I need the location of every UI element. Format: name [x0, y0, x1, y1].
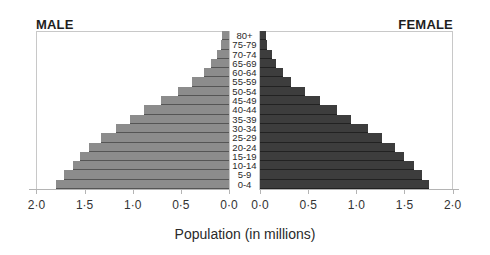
female-bar: [260, 96, 320, 105]
female-tick: [453, 190, 454, 194]
male-bar: [144, 105, 229, 114]
male-bar: [161, 96, 229, 105]
male-tick-label: 0·5: [172, 198, 189, 212]
female-tick: [260, 190, 261, 194]
female-bar: [260, 50, 272, 59]
male-tick-label: 1·5: [76, 198, 93, 212]
female-bar: [260, 59, 276, 68]
female-bar: [260, 124, 368, 133]
male-tick: [229, 190, 230, 194]
female-bar: [260, 77, 291, 86]
female-bar: [260, 68, 283, 77]
female-tick-label: 1·5: [396, 198, 413, 212]
male-bar: [73, 161, 229, 170]
male-tick-label: 1·0: [124, 198, 141, 212]
female-bar: [260, 152, 404, 161]
female-bar: [260, 115, 351, 124]
female-bar: [260, 170, 422, 179]
male-bar: [217, 50, 229, 59]
female-bar: [260, 40, 267, 49]
male-bar: [221, 40, 229, 49]
female-bar: [260, 161, 414, 170]
male-tick: [85, 190, 86, 194]
female-tick: [404, 190, 405, 194]
male-bar: [89, 143, 229, 152]
female-title: FEMALE: [398, 17, 453, 32]
female-x-axis: [260, 189, 459, 190]
female-bar: [260, 87, 305, 96]
female-bar: [260, 105, 337, 114]
male-bar: [56, 180, 229, 189]
male-tick: [133, 190, 134, 194]
male-tick: [36, 190, 37, 194]
female-bar: [260, 31, 266, 40]
male-x-axis: [29, 189, 229, 190]
male-bar: [64, 170, 229, 179]
male-bar: [130, 115, 229, 124]
male-bar: [204, 68, 229, 77]
male-bar: [222, 31, 229, 40]
female-bar: [260, 143, 395, 152]
male-bar: [211, 59, 229, 68]
female-tick: [356, 190, 357, 194]
male-bar: [192, 77, 229, 86]
male-tick: [181, 190, 182, 194]
male-bar: [116, 124, 229, 133]
female-tick-label: 1·0: [348, 198, 365, 212]
male-tick-label: 0·0: [220, 198, 237, 212]
x-axis-title: Population (in millions): [0, 226, 490, 242]
male-bar: [80, 152, 229, 161]
female-tick: [308, 190, 309, 194]
male-bar: [101, 133, 229, 142]
female-tick-label: 2·0: [444, 198, 461, 212]
female-bar: [260, 180, 429, 189]
female-tick-label: 0·0: [251, 198, 268, 212]
male-bar: [178, 87, 229, 96]
male-tick-label: 2·0: [28, 198, 45, 212]
age-group-label: 0-4: [229, 180, 260, 189]
male-title: MALE: [36, 17, 74, 32]
female-tick-label: 0·5: [299, 198, 316, 212]
female-bar: [260, 133, 382, 142]
